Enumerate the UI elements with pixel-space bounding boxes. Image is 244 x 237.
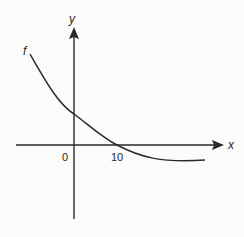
x-axis-label: x — [228, 139, 234, 151]
y-axis-label: y — [69, 13, 75, 25]
graph-canvas — [0, 0, 244, 237]
tick-label-10: 10 — [111, 152, 123, 163]
graph-figure: f y x 0 10 — [0, 0, 244, 237]
function-label: f — [23, 45, 26, 57]
tick-label-0: 0 — [62, 152, 68, 163]
